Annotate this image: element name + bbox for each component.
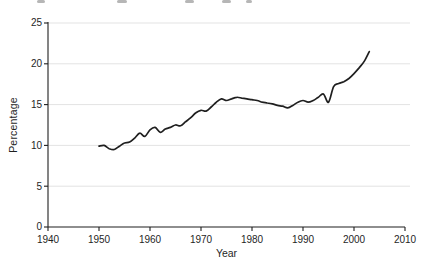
line-chart: 0510152025194019501960197019801990200020… [0,0,427,270]
y-axis-title: Percentage [7,97,19,153]
y-tick-label: 0 [36,221,42,232]
x-tick-label: 1990 [292,234,315,245]
y-tick-label: 20 [31,58,43,69]
x-tick-label: 1970 [190,234,213,245]
chart-plot-area: 0510152025194019501960197019801990200020… [0,0,427,270]
y-tick-label: 10 [31,140,43,151]
x-axis-title: Year [48,247,405,259]
x-tick-label: 1960 [139,234,162,245]
y-tick-label: 25 [31,17,43,28]
x-tick-label: 2000 [343,234,366,245]
data-series-line [99,52,369,150]
x-tick-label: 1980 [241,234,264,245]
x-tick-label: 2010 [394,234,417,245]
x-tick-label: 1950 [88,234,111,245]
y-tick-label: 15 [31,99,43,110]
y-tick-label: 5 [36,181,42,192]
figure-canvas: 0510152025194019501960197019801990200020… [0,0,427,270]
x-tick-label: 1940 [37,234,60,245]
